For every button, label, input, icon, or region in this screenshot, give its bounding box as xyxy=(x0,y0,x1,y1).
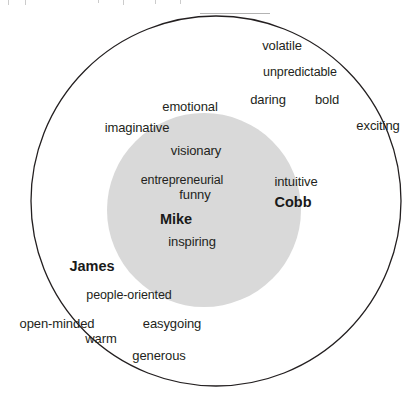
venn-diagram xyxy=(0,0,413,410)
person-label-cobb: Cobb xyxy=(274,195,311,210)
word-warm: warm xyxy=(85,332,116,345)
diagram-canvas: volatileunpredictabledaringboldexcitinge… xyxy=(0,0,413,410)
word-emotional: emotional xyxy=(162,100,217,113)
word-unpredictable: unpredictable xyxy=(263,66,337,79)
word-open-minded: open-minded xyxy=(20,317,95,330)
word-people-oriented: people-oriented xyxy=(86,289,171,302)
word-daring: daring xyxy=(250,93,286,106)
word-entrepreneurial: entrepreneurial xyxy=(141,174,224,187)
word-imaginative: imaginative xyxy=(105,121,170,134)
person-label-mike: Mike xyxy=(160,212,192,227)
word-bold: bold xyxy=(315,93,339,106)
word-generous: generous xyxy=(132,349,185,362)
word-visionary: visionary xyxy=(171,144,221,157)
word-volatile: volatile xyxy=(262,39,302,52)
word-easygoing: easygoing xyxy=(143,317,201,330)
word-exciting: exciting xyxy=(356,119,399,132)
person-label-james: James xyxy=(69,259,114,274)
word-funny: funny xyxy=(179,188,210,201)
word-inspiring: inspiring xyxy=(168,235,216,248)
word-intuitive: intuitive xyxy=(274,175,317,188)
